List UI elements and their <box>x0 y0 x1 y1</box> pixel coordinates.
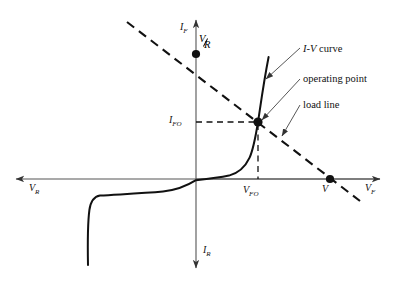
leader-line-operating-point <box>262 79 300 120</box>
load-line-y-intercept-dot <box>192 50 200 58</box>
label-ifo: IFO <box>169 115 182 128</box>
v-over-r-denominator: R <box>204 39 210 50</box>
operating-point-dot <box>253 117 262 126</box>
axis-label-vr: VR <box>29 183 39 196</box>
annotation-load-line: load line <box>303 100 339 111</box>
leader-line-load-line <box>282 105 300 136</box>
load-line-x-intercept-dot <box>326 175 334 183</box>
iv-curve <box>88 57 269 265</box>
annotation-operating-point: operating point <box>303 74 367 85</box>
axis-label-if: IF <box>180 22 188 35</box>
leader-line-iv-curve <box>266 48 300 79</box>
annotation-iv-curve: I-V curve <box>303 44 342 55</box>
diode-iv-characteristic-figure: IF IR VR VF V R V IFO VFO I-V curve oper… <box>0 0 402 287</box>
annotation-iv-curve-roman: curve <box>319 43 342 54</box>
annotation-iv-curve-italic: I-V <box>303 43 316 54</box>
load-line-x-intercept-label: V <box>322 184 328 194</box>
label-vfo: VFO <box>243 185 258 198</box>
axis-label-ir: IR <box>203 245 211 258</box>
axis-label-vf: VF <box>365 183 375 196</box>
